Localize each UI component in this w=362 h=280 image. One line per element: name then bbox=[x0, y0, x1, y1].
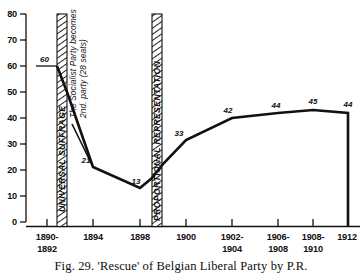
x-tick-label-1902-1904-line2: 1904 bbox=[222, 244, 243, 254]
point-label-44-1906: 44 bbox=[271, 101, 281, 110]
point-label-group-60: 60 bbox=[36, 55, 57, 66]
x-axis: 1890- 1892 1894 1898 1900 1902- 1904 190… bbox=[26, 219, 360, 254]
socialist-party-note: The Socialist Party becomes 2nd. party (… bbox=[68, 8, 93, 167]
y-tick-label-80: 80 bbox=[7, 9, 17, 19]
point-label-13: 13 bbox=[132, 177, 141, 186]
x-tick-label-1890-1892-line1: 1890- bbox=[36, 232, 59, 242]
y-tick-label-40: 40 bbox=[7, 113, 17, 123]
y-axis: 0 10 20 30 40 50 60 70 80 bbox=[7, 9, 26, 227]
y-tick-label-10: 10 bbox=[7, 191, 17, 201]
series-polyline bbox=[57, 66, 348, 227]
point-label-44-1912: 44 bbox=[343, 100, 353, 109]
y-axis-ticks bbox=[20, 14, 26, 222]
x-tick-label-1906-1908-line1: 1906- bbox=[267, 232, 290, 242]
proportional-representation-band: PROPORTIONAL REPRESENTATION bbox=[152, 14, 163, 227]
point-label-60: 60 bbox=[40, 55, 49, 64]
figure-container: 0 10 20 30 40 50 60 70 80 1890- 189 bbox=[0, 0, 362, 280]
universal-suffrage-band-label: UNIVERSAL SUFFRAGE bbox=[57, 106, 67, 212]
socialist-party-note-line1: The Socialist Party becomes bbox=[68, 8, 78, 118]
x-tick-label-1890-1892-line2: 1892 bbox=[37, 244, 57, 254]
y-tick-label-50: 50 bbox=[7, 87, 17, 97]
y-tick-label-20: 20 bbox=[7, 165, 17, 175]
x-tick-label-1906-1908-line2: 1908 bbox=[268, 244, 288, 254]
x-tick-label-1900: 1900 bbox=[176, 232, 196, 242]
y-tick-label-0: 0 bbox=[12, 217, 17, 227]
data-series-liberal-party-seats bbox=[57, 66, 348, 227]
point-label-33: 33 bbox=[175, 129, 184, 138]
figure-caption: Fig. 29. 'Rescue' of Belgian Liberal Par… bbox=[0, 259, 362, 274]
x-tick-label-1902-1904-line1: 1902- bbox=[221, 232, 244, 242]
proportional-representation-band-label: PROPORTIONAL REPRESENTATION bbox=[152, 61, 162, 221]
x-axis-ticks bbox=[47, 219, 348, 227]
y-tick-label-70: 70 bbox=[7, 35, 17, 45]
x-tick-label-1898: 1898 bbox=[130, 232, 150, 242]
universal-suffrage-band: UNIVERSAL SUFFRAGE bbox=[57, 14, 68, 227]
x-tick-label-1908-1910-line2: 1910 bbox=[303, 244, 323, 254]
socialist-party-note-line2: 2nd. party (28 seats) bbox=[78, 39, 88, 119]
point-label-45: 45 bbox=[308, 97, 318, 106]
y-tick-label-60: 60 bbox=[7, 61, 17, 71]
point-label-42: 42 bbox=[223, 106, 233, 115]
x-tick-label-1894: 1894 bbox=[83, 232, 104, 242]
x-tick-label-1912: 1912 bbox=[337, 232, 357, 242]
x-tick-label-1908-1910-line1: 1908- bbox=[302, 232, 325, 242]
line-chart: 0 10 20 30 40 50 60 70 80 1890- 189 bbox=[0, 0, 362, 280]
y-tick-label-30: 30 bbox=[7, 139, 17, 149]
